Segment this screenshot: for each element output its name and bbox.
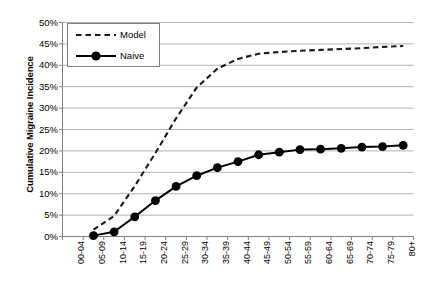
chart-legend: Model Naive bbox=[67, 23, 160, 67]
series-line-model bbox=[93, 46, 403, 230]
plot-area bbox=[0, 0, 427, 304]
series-line-naive bbox=[93, 145, 403, 235]
legend-item-model: Model bbox=[68, 24, 161, 46]
legend-label-naive: Naive bbox=[120, 50, 144, 61]
legend-swatch-model-icon bbox=[74, 24, 118, 46]
x-tickmarks bbox=[63, 237, 414, 241]
series-markers-naive bbox=[89, 141, 408, 240]
y-tickmarks bbox=[59, 23, 63, 237]
legend-label-model: Model bbox=[120, 29, 146, 40]
migraine-incidence-chart: Cumulative Migraine Incidence 0%5%10%15%… bbox=[0, 0, 427, 304]
legend-swatch-naive-icon bbox=[74, 45, 118, 67]
legend-item-naive: Naive bbox=[68, 45, 161, 67]
